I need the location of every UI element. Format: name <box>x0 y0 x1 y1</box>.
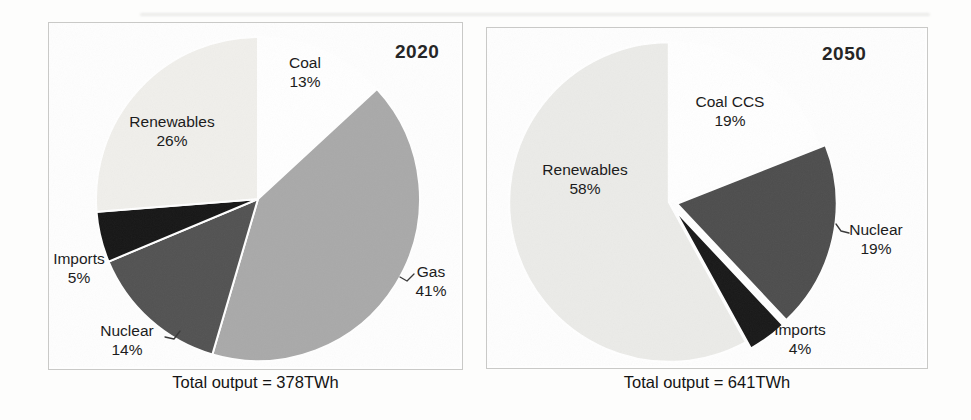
slice-label-nuclear-2050-name: Nuclear <box>840 220 912 239</box>
pie-chart-2020 <box>49 23 460 367</box>
slice-label-imports-2050-name: Imports <box>762 320 838 339</box>
chart-panel-2020 <box>48 22 463 370</box>
slice-label-nuclear-2020-pct: 14% <box>77 340 177 359</box>
slice-label-imports-2020-name: Imports <box>39 249 119 268</box>
slice-label-nuclear-2050: Nuclear 19% <box>840 220 912 258</box>
slice-label-imports-2020-pct: 5% <box>39 268 119 287</box>
slice-label-imports-2050: Imports 4% <box>762 320 838 358</box>
slice-label-renewables-2050-pct: 58% <box>525 179 645 198</box>
chart-title-2020: 2020 <box>395 41 439 63</box>
figure-two-pie-charts: 2020 Coal 13% Renewables 26% Imports 5% … <box>0 0 971 420</box>
slice-label-nuclear-2020: Nuclear 14% <box>77 321 177 359</box>
slice-label-gas-pct: 41% <box>399 281 463 300</box>
chart-title-2050: 2050 <box>822 43 866 65</box>
slice-label-gas: Gas 41% <box>399 262 463 300</box>
slice-label-coal-name: Coal <box>265 53 345 72</box>
total-output-caption-2020: Total output = 378TWh <box>135 373 376 392</box>
slice-label-renewables-2050-name: Renewables <box>525 160 645 179</box>
slice-label-imports-2020: Imports 5% <box>39 249 119 287</box>
slice-label-coal-ccs-name: Coal CCS <box>670 92 790 111</box>
slice-label-coal-ccs: Coal CCS 19% <box>670 92 790 130</box>
slice-label-gas-name: Gas <box>399 262 463 281</box>
scan-smudge <box>140 13 930 16</box>
slice-label-renewables-2050: Renewables 58% <box>525 160 645 198</box>
slice-label-renewables-2020-name: Renewables <box>112 112 232 131</box>
chart-panel-2050 <box>486 27 928 369</box>
slice-label-imports-2050-pct: 4% <box>762 339 838 358</box>
slice-label-nuclear-2050-pct: 19% <box>840 239 912 258</box>
slice-label-coal: Coal 13% <box>265 53 345 91</box>
total-output-caption-2050: Total output = 641TWh <box>587 373 827 392</box>
slice-label-coal-pct: 13% <box>265 72 345 91</box>
slice-label-coal-ccs-pct: 19% <box>670 111 790 130</box>
slice-label-renewables-2020-pct: 26% <box>112 131 232 150</box>
slice-label-nuclear-2020-name: Nuclear <box>77 321 177 340</box>
slice-label-renewables-2020: Renewables 26% <box>112 112 232 150</box>
